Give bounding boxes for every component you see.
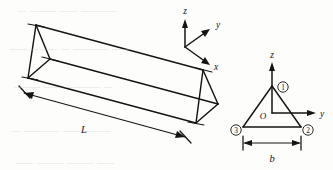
base-label: b bbox=[269, 153, 274, 164]
cross-section-y-label: y bbox=[319, 109, 325, 119]
cross-section-z-axis-group: z bbox=[269, 50, 275, 113]
triad-x-label: x bbox=[213, 62, 219, 72]
cross-section-z-arrowhead bbox=[269, 62, 275, 71]
base-dimension: b bbox=[243, 136, 301, 164]
vertex-marker-1: 1 bbox=[278, 82, 288, 92]
cross-section-z-label: z bbox=[269, 50, 274, 60]
cross-section-origin-label: O bbox=[260, 111, 267, 121]
cross-section-edge-left bbox=[243, 86, 272, 127]
prism-far-edge-apex-to-left bbox=[196, 70, 203, 123]
cross-section-y-axis-group: y bbox=[272, 109, 325, 119]
vertex-marker-3: 3 bbox=[231, 125, 241, 135]
cross-section-group: z y O 1 2 3 bbox=[231, 50, 325, 164]
background-bleed-line: —— ——— — ———— —— bbox=[10, 44, 130, 53]
background-bleed-line: ——— —— ———— — bbox=[14, 82, 113, 91]
cross-section-y-arrowhead bbox=[307, 110, 316, 116]
base-arrow-right bbox=[292, 140, 301, 146]
triad-y-label: y bbox=[215, 20, 221, 30]
prism-longitudinal-edges bbox=[28, 25, 218, 123]
axis-triad: z y x bbox=[182, 6, 221, 72]
vertex-marker-2: 2 bbox=[303, 125, 313, 135]
triad-z-arrowhead bbox=[182, 19, 188, 28]
prism-end-ticks bbox=[22, 24, 212, 125]
background-bleed-line: — ———— —— ——— bbox=[12, 126, 111, 135]
vertex-2-label: 2 bbox=[306, 126, 310, 135]
prism-near-edge-left-to-front bbox=[28, 59, 50, 78]
prism-far-edge-left-to-front bbox=[196, 104, 218, 123]
background-bleed-line: —— ——— ——— —— bbox=[16, 158, 115, 167]
cross-section-edge-right bbox=[272, 86, 301, 127]
tick-near-base bbox=[22, 77, 38, 80]
figure-root: — ——— —— —————— ——— — ———— ————— —— ————… bbox=[0, 0, 333, 170]
background-bleed-line: — ——— —— ———— bbox=[18, 6, 117, 15]
prism-face-far bbox=[196, 70, 218, 123]
prism-near-edge-apex-to-front bbox=[36, 25, 50, 59]
triad-x-arrowhead bbox=[201, 57, 210, 65]
prism-far-edge-apex-to-front bbox=[203, 70, 218, 104]
triad-y-arrowhead bbox=[201, 29, 210, 37]
vertex-3-label: 3 bbox=[234, 126, 238, 135]
triad-z-label: z bbox=[182, 6, 187, 16]
triad-x-axis bbox=[185, 47, 206, 62]
vertex-1-label: 1 bbox=[281, 83, 285, 92]
base-arrow-left bbox=[243, 140, 252, 146]
triad-y-axis bbox=[185, 32, 206, 47]
